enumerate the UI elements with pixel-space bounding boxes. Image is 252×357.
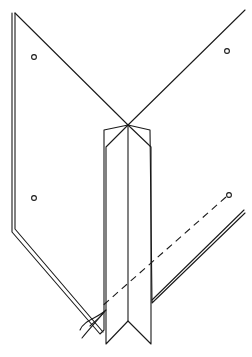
center-strip [106, 125, 151, 344]
left-wing-outline [12, 13, 128, 334]
thread [80, 310, 106, 338]
right-wing-outline [128, 10, 245, 303]
dashed-guide-line [100, 197, 226, 308]
right-wing-inner-edge [152, 210, 244, 300]
folded-panel-diagram [0, 0, 252, 357]
punched-holes [32, 49, 232, 201]
right-wing [128, 10, 245, 303]
hole-top-left-icon [32, 55, 37, 60]
hole-bottom-left-icon [32, 196, 37, 201]
figure-canvas [0, 0, 252, 357]
left-wing [12, 13, 128, 334]
hole-top-right-icon [225, 49, 230, 54]
hole-bottom-right-icon [227, 193, 232, 198]
left-wing-inner-edge [15, 13, 103, 332]
